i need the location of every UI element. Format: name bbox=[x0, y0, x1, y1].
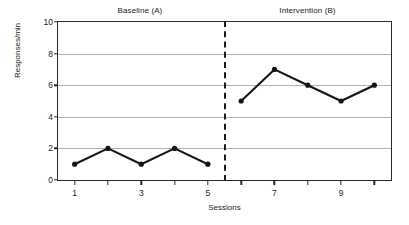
x-tick-mark bbox=[374, 180, 375, 185]
x-tick-label: 9 bbox=[339, 188, 344, 198]
y-tick-label: 4 bbox=[48, 112, 53, 122]
x-tick-mark bbox=[307, 180, 308, 185]
data-point-marker bbox=[205, 162, 210, 167]
x-tick-label: 7 bbox=[272, 188, 277, 198]
x-tick-mark bbox=[340, 180, 341, 185]
data-series-group bbox=[58, 22, 391, 180]
data-point-marker bbox=[305, 83, 310, 88]
y-tick-label: 0 bbox=[48, 175, 53, 185]
plot-area: 0246810 13579 bbox=[57, 21, 392, 181]
data-point-marker bbox=[338, 98, 343, 103]
data-point-marker bbox=[172, 146, 177, 151]
y-tick-label: 2 bbox=[48, 143, 53, 153]
x-tick-mark bbox=[141, 180, 142, 185]
data-point-marker bbox=[239, 98, 244, 103]
x-tick-label: 1 bbox=[72, 188, 77, 198]
y-tick-label: 8 bbox=[48, 49, 53, 59]
x-tick-label: 3 bbox=[139, 188, 144, 198]
x-tick-mark bbox=[274, 180, 275, 185]
x-tick-mark bbox=[174, 180, 175, 185]
y-tick-label: 10 bbox=[44, 17, 53, 27]
phase-label-baseline: Baseline (A) bbox=[57, 6, 223, 15]
data-point-marker bbox=[372, 83, 377, 88]
data-point-marker bbox=[272, 67, 277, 72]
x-axis-title: Sessions bbox=[57, 203, 392, 212]
chart-figure: Baseline (A) Intervention (B) Responses/… bbox=[0, 0, 409, 225]
x-tick-mark bbox=[207, 180, 208, 185]
x-tick-mark bbox=[74, 180, 75, 185]
x-tick-mark bbox=[107, 180, 108, 185]
data-point-marker bbox=[105, 146, 110, 151]
y-tick-label: 6 bbox=[48, 80, 53, 90]
phase-label-intervention: Intervention (B) bbox=[223, 6, 392, 15]
x-tick-mark bbox=[240, 180, 241, 185]
data-point-marker bbox=[72, 162, 77, 167]
y-axis-title: Responses/min bbox=[13, 0, 22, 111]
data-point-marker bbox=[139, 162, 144, 167]
x-tick-label: 5 bbox=[205, 188, 210, 198]
